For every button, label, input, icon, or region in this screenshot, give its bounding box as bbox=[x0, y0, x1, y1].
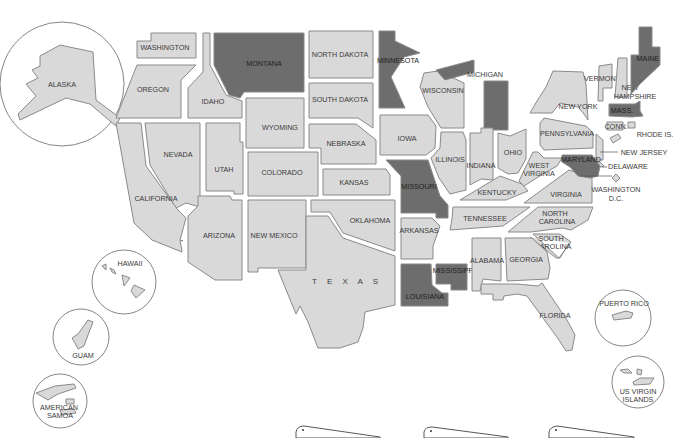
label-dc-2: D.C. bbox=[609, 194, 623, 203]
american-samoa-island-2 bbox=[66, 399, 74, 404]
state-minnesota[interactable] bbox=[379, 31, 420, 108]
card-1-pin bbox=[302, 429, 304, 431]
guam-island bbox=[72, 320, 93, 349]
puerto-rico-island bbox=[612, 311, 633, 320]
usvi-island-3 bbox=[633, 378, 654, 385]
state-vermont[interactable] bbox=[598, 64, 612, 101]
inset-puerto-rico[interactable]: PUERTO RICO bbox=[595, 290, 651, 346]
hawaii-island-3 bbox=[122, 275, 130, 286]
label-usvi-2: ISLANDS bbox=[623, 395, 654, 404]
state-washington[interactable] bbox=[137, 33, 196, 58]
hawaii-island-2 bbox=[110, 268, 116, 274]
hawaii-island-1 bbox=[102, 264, 106, 270]
card-2-pin bbox=[430, 430, 432, 432]
state-indiana[interactable] bbox=[470, 128, 493, 185]
state-alabama[interactable] bbox=[472, 238, 501, 291]
inset-alaska[interactable]: ALASKA bbox=[0, 22, 124, 146]
state-mississippi[interactable] bbox=[436, 264, 467, 290]
label-guam: GUAM bbox=[72, 351, 94, 360]
inset-hawaii[interactable]: HAWAII bbox=[92, 250, 156, 314]
state-ohio[interactable] bbox=[498, 129, 526, 174]
state-wyoming[interactable] bbox=[246, 98, 304, 148]
inset-us-virgin-islands[interactable]: US VIRGIN ISLANDS bbox=[612, 356, 664, 408]
label-hawaii: HAWAII bbox=[117, 259, 142, 268]
state-south-dakota[interactable] bbox=[309, 83, 373, 128]
american-samoa-inset-circle bbox=[33, 374, 87, 428]
state-iowa[interactable] bbox=[380, 115, 436, 155]
state-kansas[interactable] bbox=[323, 169, 390, 195]
state-new-jersey[interactable] bbox=[596, 134, 603, 160]
state-north-dakota[interactable] bbox=[309, 31, 373, 78]
card-3-pin bbox=[555, 429, 557, 431]
american-samoa-island-3 bbox=[60, 409, 76, 415]
inset-american-samoa[interactable]: AMERICAN SAMOA bbox=[33, 374, 87, 428]
hawaii-island-4 bbox=[131, 285, 145, 298]
label-usvi-1: US VIRGIN bbox=[620, 387, 657, 396]
state-florida[interactable] bbox=[481, 283, 575, 351]
card-2[interactable] bbox=[424, 427, 508, 438]
label-puerto-rico: PUERTO RICO bbox=[599, 299, 649, 308]
state-montana[interactable] bbox=[214, 33, 304, 98]
state-michigan-up[interactable] bbox=[436, 60, 474, 80]
state-arizona[interactable] bbox=[188, 196, 242, 280]
state-colorado[interactable] bbox=[248, 152, 318, 196]
bottom-cards bbox=[296, 426, 634, 438]
state-utah[interactable] bbox=[206, 123, 243, 194]
usvi-island-1 bbox=[620, 369, 632, 373]
state-new-jersey-shape[interactable] bbox=[610, 134, 621, 143]
card-1[interactable] bbox=[296, 426, 380, 438]
inset-guam[interactable]: GUAM bbox=[53, 309, 109, 365]
state-maine[interactable] bbox=[631, 27, 660, 94]
state-massachusetts[interactable] bbox=[609, 101, 643, 117]
state-michigan[interactable] bbox=[484, 81, 508, 130]
state-new-mexico[interactable] bbox=[248, 200, 306, 272]
label-delaware: DELAWARE bbox=[608, 162, 648, 171]
label-dc-1: WASHINGTON bbox=[591, 185, 640, 194]
state-arkansas[interactable] bbox=[401, 218, 440, 259]
state-rhode-island[interactable] bbox=[628, 122, 635, 128]
region-west: WASHINGTON OREGON IDAHO MONTANA NEVADA C… bbox=[116, 33, 318, 280]
card-3[interactable] bbox=[549, 426, 634, 438]
usvi-island-2 bbox=[637, 369, 642, 375]
state-new-york[interactable] bbox=[530, 71, 588, 120]
label-rhode-island: RHODE IS. bbox=[637, 130, 674, 139]
region-northeast: NEW YORK VERMONT NEW HAMPSHIRE MAINE MAS… bbox=[530, 27, 673, 203]
state-nebraska[interactable] bbox=[309, 124, 376, 164]
dc-marker[interactable] bbox=[612, 174, 620, 182]
state-new-hampshire[interactable] bbox=[615, 58, 627, 97]
state-pennsylvania[interactable] bbox=[540, 118, 593, 150]
state-oregon[interactable] bbox=[116, 65, 196, 118]
label-new-jersey: NEW JERSEY bbox=[621, 148, 668, 157]
american-samoa-island-1 bbox=[36, 384, 76, 400]
state-alaska[interactable] bbox=[18, 45, 120, 126]
state-connecticut[interactable] bbox=[607, 122, 623, 130]
us-map: ALASKA WASHINGTON OREGON IDAHO MONTANA N… bbox=[0, 0, 687, 438]
